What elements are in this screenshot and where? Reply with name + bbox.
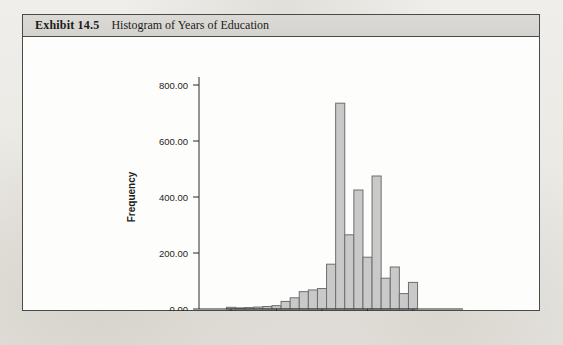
scanned-page-background: Exhibit 14.5 Histogram of Years of Educa… [0,0,563,345]
exhibit-number: Exhibit 14.5 [35,18,99,33]
histogram-bar [308,290,317,309]
histogram-chart: 05101520 0.00200.00400.00600.00800.00 Fr… [23,37,539,311]
histogram-bar [381,278,390,309]
y-axis-ticks: 0.00200.00400.00600.00800.00 [159,80,199,312]
histogram-bar [299,292,308,309]
y-axis-title: Frequency [126,171,137,222]
histogram-bar [290,298,299,309]
chart-plot-area: 05101520 0.00200.00400.00600.00800.00 Fr… [23,37,539,311]
histogram-bar [354,190,363,309]
y-tick-label: 600.00 [159,136,188,147]
exhibit-caption: Histogram of Years of Education [111,18,269,33]
histogram-bar [281,301,290,309]
histogram-bar [345,235,354,309]
exhibit-header: Exhibit 14.5 Histogram of Years of Educa… [23,15,539,37]
exhibit-box: Exhibit 14.5 Histogram of Years of Educa… [22,14,540,311]
y-tick-label: 0.00 [170,304,189,312]
histogram-bar [399,294,408,309]
histogram-bar [372,176,381,309]
y-tick-label: 200.00 [159,248,188,259]
histogram-bars [226,103,417,309]
histogram-bar [272,306,281,309]
histogram-bar [363,257,372,309]
histogram-bar [408,282,417,309]
histogram-bar [336,103,345,309]
histogram-bar [390,267,399,309]
y-tick-label: 800.00 [159,80,188,91]
histogram-bar [317,289,326,309]
histogram-bar [327,264,336,309]
y-tick-label: 400.00 [159,192,188,203]
